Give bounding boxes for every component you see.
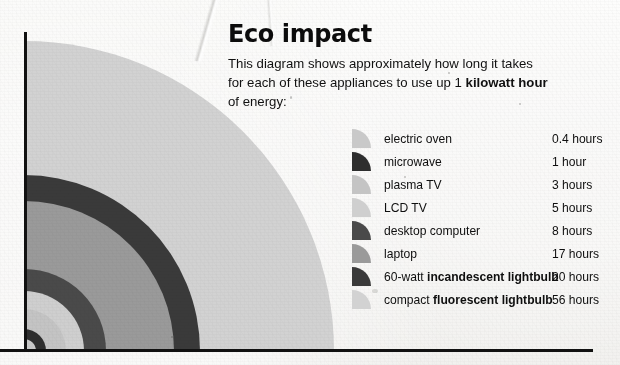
- legend-list: electric oven0.4 hoursmicrowave1 hourpla…: [352, 127, 620, 311]
- description-line-2-prefix: for each of these appliances to use up 1: [228, 75, 466, 90]
- description-line-1: This diagram shows approximately how lon…: [228, 56, 533, 71]
- quarter-circle-swatch-icon: [352, 152, 371, 171]
- quarter-circle-swatch-icon: [352, 129, 371, 148]
- legend-row[interactable]: LCD TV5 hours: [352, 196, 620, 219]
- legend-item-label: 60-watt incandescent lightbulb: [384, 270, 559, 284]
- legend-row[interactable]: laptop17 hours: [352, 242, 620, 265]
- legend-item-hours: 8 hours: [552, 224, 592, 238]
- legend-item-label-text: desktop computer: [384, 224, 480, 238]
- quarter-circle-swatch-icon: [352, 198, 371, 217]
- legend-item-hours: 20 hours: [552, 270, 599, 284]
- legend-item-hours: 56 hours: [552, 293, 599, 307]
- legend-row[interactable]: electric oven0.4 hours: [352, 127, 620, 150]
- legend-row[interactable]: desktop computer8 hours: [352, 219, 620, 242]
- description-text: This diagram shows approximately how lon…: [228, 54, 588, 111]
- legend-item-hours: 5 hours: [552, 201, 592, 215]
- legend-item-label: LCD TV: [384, 201, 427, 215]
- paper-speck: [171, 336, 173, 338]
- legend-item-label: desktop computer: [384, 224, 480, 238]
- page-title: Eco impact: [228, 22, 620, 47]
- legend-item-label-text: laptop: [384, 247, 417, 261]
- quarter-circle-swatch-icon: [352, 290, 371, 309]
- legend-item-hours: 0.4 hours: [552, 132, 602, 146]
- legend-item-label: plasma TV: [384, 178, 442, 192]
- legend-item-label-emphasis: fluorescent lightbulb: [433, 293, 553, 307]
- legend-item-hours: 1 hour: [552, 155, 586, 169]
- quarter-circle-swatch-icon: [352, 267, 371, 286]
- legend-item-label-text: compact: [384, 293, 433, 307]
- legend-row[interactable]: 60-watt incandescent lightbulb20 hours: [352, 265, 620, 288]
- description-line-2-bold: kilowatt hour: [466, 75, 548, 90]
- legend-item-label-emphasis: incandescent lightbulb: [427, 270, 559, 284]
- legend-item-hours: 3 hours: [552, 178, 592, 192]
- legend-item-hours: 17 hours: [552, 247, 599, 261]
- legend-item-label: electric oven: [384, 132, 452, 146]
- legend-row[interactable]: microwave1 hour: [352, 150, 620, 173]
- legend-item-label: compact fluorescent lightbulb: [384, 293, 553, 307]
- quarter-circle-swatch-icon: [352, 221, 371, 240]
- legend-item-label: microwave: [384, 155, 442, 169]
- text-panel: Eco impact This diagram shows approximat…: [228, 22, 620, 112]
- legend-row[interactable]: compact fluorescent lightbulb56 hours: [352, 288, 620, 311]
- y-axis-line: [24, 32, 27, 352]
- quarter-circle-swatch-icon: [352, 244, 371, 263]
- legend-item-label-text: 60-watt: [384, 270, 427, 284]
- quarter-circle-swatch-icon: [352, 175, 371, 194]
- legend-row[interactable]: plasma TV3 hours: [352, 173, 620, 196]
- infographic-canvas: Eco impact This diagram shows approximat…: [0, 0, 620, 365]
- legend-item-label-text: plasma TV: [384, 178, 442, 192]
- legend-item-label-text: LCD TV: [384, 201, 427, 215]
- legend-item-label-text: microwave: [384, 155, 442, 169]
- x-axis-line: [0, 349, 593, 352]
- description-line-3: of energy:: [228, 94, 287, 109]
- legend-item-label-text: electric oven: [384, 132, 452, 146]
- legend-item-label: laptop: [384, 247, 417, 261]
